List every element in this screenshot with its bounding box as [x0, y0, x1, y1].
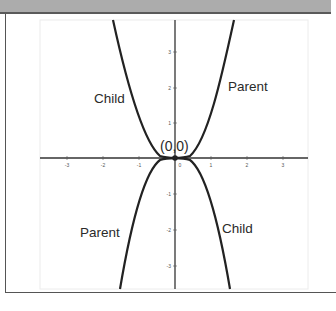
y-tick-label: 3	[168, 49, 171, 55]
label-origin: (0,0)	[160, 138, 189, 154]
y-tick-label: -2	[167, 227, 172, 233]
x-tick-label: -1	[137, 162, 142, 168]
origin-point	[172, 155, 178, 161]
label-parent-upper-right: Parent	[228, 79, 268, 94]
x-tick-label: -2	[101, 162, 106, 168]
y-tick-label: 1	[168, 120, 171, 126]
y-tick-label: -1	[167, 191, 172, 197]
label-child-lower-right: Child	[222, 221, 253, 236]
x-tick-label: 3	[282, 162, 285, 168]
x-tick-label: 1	[210, 162, 213, 168]
y-tick-label: 2	[168, 85, 171, 91]
x-tick-label: -3	[65, 162, 70, 168]
x-tick-label: 0	[179, 162, 182, 168]
label-child-upper-left: Child	[94, 91, 125, 106]
y-tick-label: -3	[167, 263, 172, 269]
x-tick-label: 2	[246, 162, 249, 168]
label-parent-lower-left: Parent	[80, 225, 120, 240]
plot-area	[40, 20, 308, 289]
